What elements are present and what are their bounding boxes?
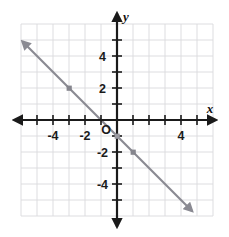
y-tick-label-2: 2 <box>99 82 106 96</box>
x-tick-label-neg4: -4 <box>47 129 58 143</box>
figure-background <box>0 0 229 237</box>
y-tick-label-neg2: -2 <box>97 146 108 160</box>
x-tick-label-4: 4 <box>178 129 185 143</box>
graph-figure: -4 -2 4 4 2 -2 -4 O x y <box>0 0 229 237</box>
coordinate-plane: -4 -2 4 4 2 -2 -4 O x y <box>0 0 229 237</box>
y-tick-label-4: 4 <box>99 50 106 64</box>
plot-point-y-intercept <box>115 134 120 139</box>
plot-point-2 <box>131 150 136 155</box>
y-tick-label-neg4: -4 <box>97 178 108 192</box>
origin-label: O <box>101 123 111 137</box>
y-axis-label: y <box>121 9 129 24</box>
x-axis-label: x <box>206 101 214 116</box>
x-tick-label-neg2: -2 <box>79 129 90 143</box>
plot-point-1 <box>67 86 72 91</box>
